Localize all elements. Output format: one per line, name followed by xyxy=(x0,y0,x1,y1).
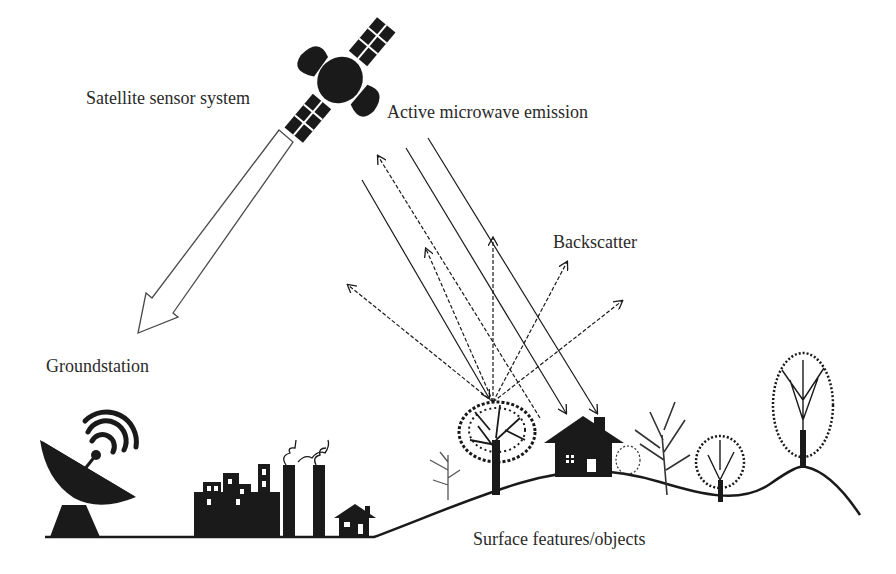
groundstation-label: Groundstation xyxy=(46,356,149,377)
ground-terrain xyxy=(45,467,860,537)
house-icon xyxy=(544,416,624,477)
satellite-dish-icon xyxy=(40,412,136,537)
hollow-arrow-icon xyxy=(138,130,293,333)
remote-sensing-diagram xyxy=(0,0,896,574)
surface-features-label: Surface features/objects xyxy=(473,529,645,550)
tree-icon xyxy=(430,353,833,502)
small-house-icon xyxy=(334,504,376,537)
backscatter-label: Backscatter xyxy=(553,232,637,253)
microwave-emission-label: Active microwave emission xyxy=(387,102,588,123)
satellite-sensor-label: Satellite sensor system xyxy=(86,88,250,109)
factory-icon xyxy=(194,440,329,537)
backscatter-rays xyxy=(348,156,622,418)
